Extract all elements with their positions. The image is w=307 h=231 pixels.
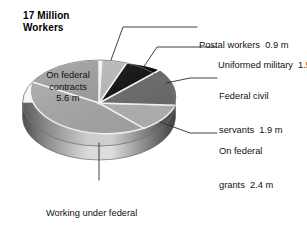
callout-civil-line1: Federal civil	[219, 91, 283, 102]
leader-line-civil	[166, 78, 217, 83]
pie-chart-figure: 17 Million Workers	[0, 0, 307, 231]
leader-line-postal	[111, 27, 197, 60]
slice-label-on-federal-contracts: On federal contracts 5.6 m	[29, 70, 107, 105]
slice-label-line3: 5.6 m	[29, 93, 107, 105]
slice-label-line1: On federal	[29, 70, 107, 82]
callout-federal-mandate: Working under federal mandate for state …	[46, 185, 151, 231]
slice-label-line2: contracts	[29, 82, 107, 94]
callout-grants-line1: On federal	[219, 146, 273, 157]
callout-mandate-line1: Working under federal	[46, 208, 151, 219]
callout-grants-line2: grants 2.4 m	[219, 180, 273, 191]
callout-on-federal-grants: On federal grants 2.4 m	[219, 123, 273, 214]
